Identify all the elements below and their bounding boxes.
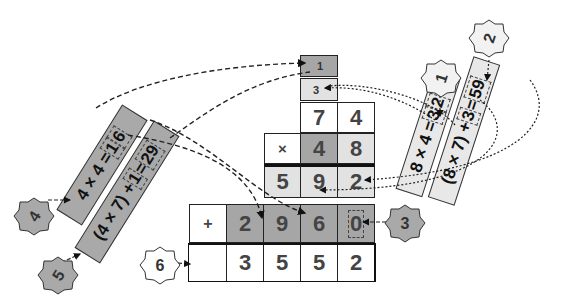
connector-overlay: 1 2 3 4 5 6 (0, 0, 564, 308)
badge-3: 3 (385, 205, 425, 242)
badge-2: 2 (469, 20, 509, 57)
badge-6: 6 (140, 247, 180, 284)
svg-text:6: 6 (156, 257, 165, 274)
svg-text:3: 3 (401, 215, 410, 232)
badge-5: 5 (38, 257, 78, 294)
badge-4: 4 (14, 198, 54, 235)
badge-1: 1 (421, 60, 461, 97)
